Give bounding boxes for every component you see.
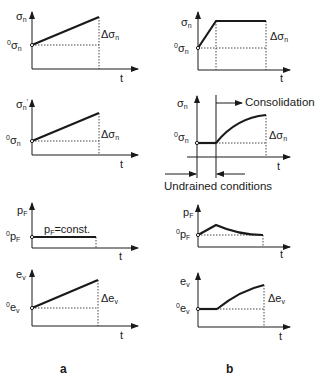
initial-value-label: 0σn — [174, 131, 189, 144]
panel-a-volumetric-strain — [30, 270, 138, 326]
y-label: σn — [181, 16, 192, 29]
initial-value-label: 0ev — [176, 302, 190, 315]
y-label: ev — [180, 275, 190, 288]
initial-value-label: 0pF — [6, 230, 20, 243]
panel-b-pore-pressure — [196, 205, 290, 247]
undrained-conditions-label: Undrained conditions — [164, 180, 272, 192]
pf-const-label: pF=const. — [44, 223, 90, 236]
delta-label: Δσn — [270, 30, 288, 43]
y-label: pF — [183, 206, 193, 219]
y-label: σn' — [16, 98, 28, 111]
curve — [32, 17, 99, 45]
initial-value-label: 0σn — [6, 134, 21, 147]
delta-label: Δσn — [101, 28, 119, 41]
initial-value-label: 0σn — [7, 39, 22, 52]
t-axis-label: t — [120, 329, 123, 341]
column-label-b: b — [226, 362, 233, 376]
initial-value-label: 0ev — [6, 301, 20, 314]
t-axis-label: t — [120, 72, 123, 84]
t-axis-label: t — [279, 330, 282, 342]
delta-label: Δev — [101, 292, 118, 305]
t-axis-label: t — [277, 160, 280, 172]
y-label: pF — [17, 204, 27, 217]
y-label: σn — [16, 10, 27, 23]
t-axis-label: t — [120, 158, 123, 170]
panel-a-effective-stress — [30, 100, 138, 155]
panel-a-total-stress — [30, 12, 138, 69]
t-axis-label: t — [280, 248, 283, 260]
consolidation-diagram: σn 0σn Δσn t σn 0σn Δσn t σn' 0σn Δσn t … — [0, 0, 324, 381]
initial-value-label: 0σn — [174, 42, 189, 55]
initial-value-label: 0pF — [176, 228, 190, 241]
t-axis-label: t — [119, 250, 122, 262]
t-axis-label: t — [280, 72, 283, 84]
y-label: σn — [177, 97, 188, 110]
delta-label: Δev — [268, 292, 285, 305]
delta-label: Δσn — [101, 128, 119, 141]
y-label: ev — [16, 268, 26, 281]
column-label-a: a — [60, 362, 67, 376]
delta-label: Δσn — [269, 129, 287, 142]
consolidation-label: Consolidation — [245, 96, 315, 108]
